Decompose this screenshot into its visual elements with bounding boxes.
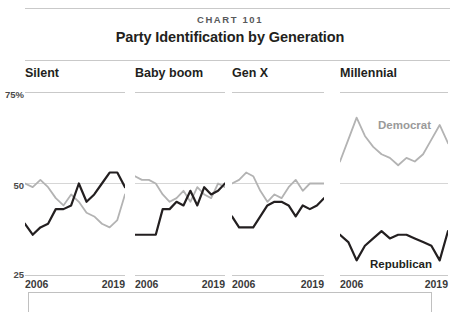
chart-panel-silent: Silent20062019 bbox=[25, 66, 125, 281]
x-axis-end-label: 2019 bbox=[301, 278, 324, 290]
x-axis-start-label: 2006 bbox=[232, 278, 255, 290]
panel-title: Gen X bbox=[232, 66, 268, 80]
footnote-box bbox=[28, 292, 432, 312]
line-series-republican bbox=[232, 198, 324, 227]
x-axis-end-label: 2019 bbox=[102, 278, 125, 290]
line-series-democrat bbox=[135, 176, 225, 202]
line-series-republican bbox=[25, 173, 125, 235]
panel-baseline bbox=[25, 275, 125, 276]
y-axis-label-25: 25 bbox=[6, 269, 24, 280]
line-series-democrat bbox=[232, 173, 324, 202]
header-rule-top bbox=[25, 8, 450, 9]
chart-panel-baby-boom: Baby boom20062019 bbox=[135, 66, 225, 281]
chart-panel-millennial: Millennial20062019 bbox=[340, 66, 448, 281]
series-label-democrat: Democrat bbox=[378, 119, 431, 131]
x-axis-end-label: 2019 bbox=[202, 278, 225, 290]
x-axis-start-label: 2006 bbox=[25, 278, 48, 290]
line-series-republican bbox=[135, 184, 225, 235]
line-series-democrat bbox=[25, 180, 125, 228]
panel-baseline bbox=[232, 275, 324, 276]
panel-plot bbox=[135, 92, 225, 275]
panel-plot bbox=[232, 92, 324, 275]
line-series-republican bbox=[340, 231, 448, 260]
x-axis-start-label: 2006 bbox=[135, 278, 158, 290]
series-label-republican: Republican bbox=[370, 258, 432, 270]
y-axis-label-50: 50 bbox=[4, 180, 24, 191]
panel-title: Millennial bbox=[340, 66, 397, 80]
panel-title: Baby boom bbox=[135, 66, 203, 80]
header-rule-bottom bbox=[25, 60, 450, 61]
y-axis-label-75: 75% bbox=[2, 89, 24, 100]
page-title: Party Identification by Generation bbox=[0, 29, 460, 45]
panel-baseline bbox=[340, 275, 448, 276]
panel-baseline bbox=[135, 275, 225, 276]
panel-title: Silent bbox=[25, 66, 59, 80]
chart-kicker: CHART 101 bbox=[0, 14, 460, 25]
chart-panel-gen-x: Gen X20062019 bbox=[232, 66, 324, 281]
panel-plot bbox=[25, 92, 125, 275]
x-axis-start-label: 2006 bbox=[340, 278, 363, 290]
x-axis-end-label: 2019 bbox=[425, 278, 448, 290]
